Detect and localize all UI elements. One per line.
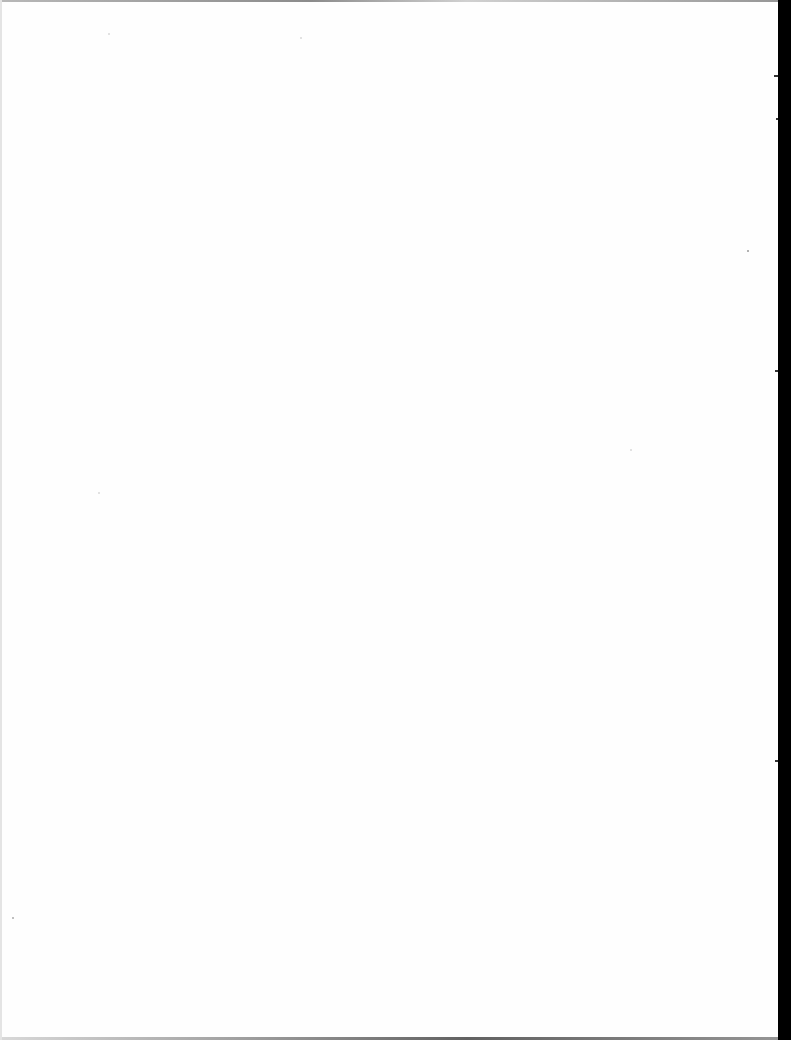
scan-speck [300, 37, 302, 39]
scan-artifact [776, 118, 778, 120]
scan-speck [747, 250, 749, 252]
scan-speck [98, 492, 100, 494]
page-top-edge [0, 0, 778, 2]
scan-artifact [774, 75, 778, 77]
scan-speck [12, 917, 14, 919]
scan-artifact [775, 370, 778, 372]
scanned-document [0, 0, 791, 1040]
blank-page [0, 0, 778, 1040]
scan-speck [630, 449, 632, 451]
page-left-edge [0, 0, 2, 1040]
scan-speck [108, 33, 110, 35]
scanner-border [778, 0, 791, 1040]
scan-artifact [775, 760, 778, 762]
